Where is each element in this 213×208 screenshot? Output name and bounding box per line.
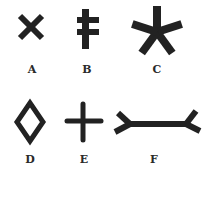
label-e: E (80, 153, 88, 166)
label-f: F (150, 153, 158, 166)
five-point-asterisk-icon (132, 6, 181, 53)
label-c: C (153, 63, 162, 76)
plus-cross-icon (67, 104, 101, 140)
label-a: A (27, 63, 37, 76)
label-d: D (25, 153, 35, 166)
diamond-outline-icon (17, 103, 43, 141)
x-cross-icon (20, 16, 42, 38)
label-b: B (82, 63, 91, 76)
forked-bar-icon (115, 111, 200, 132)
cross-of-lorraine-icon (77, 9, 99, 49)
symbol-figure: A B C D E F (0, 0, 213, 208)
